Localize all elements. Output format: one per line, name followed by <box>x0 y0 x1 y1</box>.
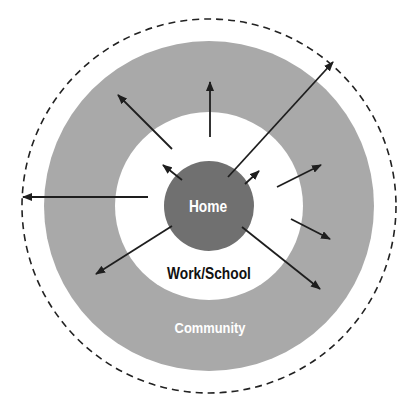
work-school-label: Work/School <box>167 264 251 282</box>
diagram-canvas: Home Work/School Community <box>0 0 414 418</box>
home-label: Home <box>189 197 227 215</box>
community-label: Community <box>175 319 246 336</box>
ecological-diagram: Home Work/School Community <box>0 0 414 418</box>
